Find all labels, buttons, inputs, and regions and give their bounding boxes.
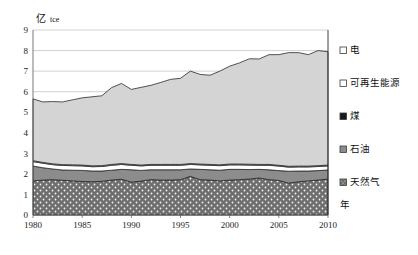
y-tick-label: 6: [24, 87, 29, 97]
legend-swatch-2: [340, 80, 347, 87]
x-tick-label: 1990: [122, 220, 141, 230]
area-series-5: [33, 51, 328, 167]
y-tick-label: 5: [24, 107, 29, 117]
x-tick-label: 2000: [221, 220, 240, 230]
y-tick-label: 1: [24, 190, 29, 200]
y-tick-label: 2: [24, 169, 29, 179]
x-axis-ticks: 1980198519901995200020052010: [24, 215, 338, 230]
legend-swatch-5: [340, 179, 347, 186]
legend-label-4: 石油: [350, 143, 370, 154]
y-tick-label: 3: [24, 149, 29, 159]
y-axis-unit-label: 亿: [36, 12, 46, 24]
y-tick-label: 0: [24, 210, 29, 220]
legend: 电可再生能源煤石油天然气: [340, 44, 400, 187]
legend-swatch-3: [340, 113, 347, 120]
y-axis-ticks: 0123456789: [24, 25, 29, 220]
x-tick-label: 1995: [172, 220, 191, 230]
x-tick-label: 2010: [319, 220, 338, 230]
x-axis-label: 年: [340, 199, 350, 210]
legend-label-5: 天然气: [350, 176, 380, 187]
y-tick-label: 9: [24, 25, 29, 35]
y-tick-label: 4: [24, 128, 29, 138]
x-tick-label: 2005: [270, 220, 289, 230]
y-axis-unit-suffix: tce: [50, 15, 60, 24]
stacked-areas: [33, 51, 328, 215]
legend-swatch-1: [340, 47, 347, 54]
y-tick-label: 8: [24, 46, 29, 56]
legend-label-3: 煤: [350, 110, 360, 121]
y-tick-label: 7: [24, 66, 29, 76]
chart-canvas: 0123456789 1980198519901995200020052010 …: [0, 0, 418, 255]
legend-label-2: 可再生能源: [350, 77, 400, 88]
legend-label-1: 电: [350, 44, 360, 55]
energy-consumption-stacked-area-chart: 0123456789 1980198519901995200020052010 …: [0, 0, 418, 255]
x-tick-label: 1980: [24, 220, 43, 230]
x-tick-label: 1985: [73, 220, 92, 230]
legend-swatch-4: [340, 146, 347, 153]
